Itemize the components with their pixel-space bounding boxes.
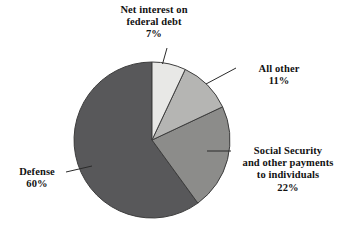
slice-label-net-interest-line1: Net interest on <box>120 4 187 15</box>
slice-label-net-interest-line2: federal debt <box>126 16 181 27</box>
slice-value-defense: 60% <box>6 178 68 190</box>
leader-line-all-other <box>206 68 236 84</box>
pie-chart-figure: Net interest on federal debt 7% All othe… <box>0 0 345 233</box>
leader-line-net-interest <box>163 48 168 64</box>
slice-label-social-security-line3: to individuals <box>257 169 319 180</box>
slice-value-social-security: 22% <box>233 182 343 194</box>
slice-value-all-other: 11% <box>238 75 320 87</box>
slice-label-all-other: All other 11% <box>238 63 320 87</box>
slice-label-all-other-line1: All other <box>259 63 300 74</box>
slice-label-defense: Defense 60% <box>6 166 68 190</box>
slice-label-social-security-line2: and other payments <box>243 157 334 168</box>
slice-label-net-interest: Net interest on federal debt 7% <box>96 4 212 41</box>
slice-label-social-security-line1: Social Security <box>254 145 322 156</box>
slice-value-net-interest: 7% <box>96 28 212 40</box>
slice-label-social-security: Social Security and other payments to in… <box>233 145 343 194</box>
slice-label-defense-line1: Defense <box>19 166 55 177</box>
